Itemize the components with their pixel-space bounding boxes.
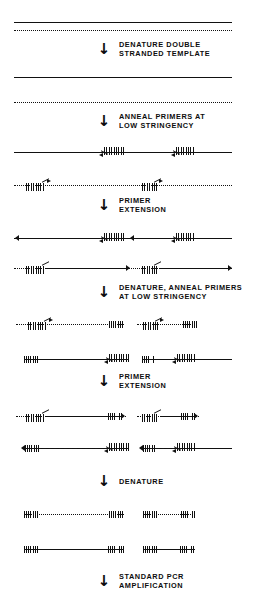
synthesis-arrowhead-left: [15, 235, 19, 241]
template-bottom-strand: [14, 24, 232, 36]
down-arrow-icon: ↓: [95, 198, 113, 213]
primer-derived-end: [25, 445, 39, 452]
down-arrow-icon: ↓: [95, 374, 113, 389]
strand-row-fragments-dotted: [0, 318, 271, 330]
new-strand-extension: [46, 262, 130, 274]
annealed-primer: [172, 442, 196, 454]
primer-arrowhead-left: [171, 153, 175, 157]
primer-arrowhead-left: [172, 449, 176, 453]
extension-line-dashed: [28, 448, 108, 449]
primer-derived-end: [24, 356, 38, 363]
down-arrow-icon: ↓: [95, 42, 113, 57]
step-primer-extension-2: ↓ PRIMEREXTENSION: [95, 372, 166, 391]
strand-line-solid: [14, 22, 232, 23]
strand-line-dotted: [14, 102, 232, 103]
primer-derived-end: [143, 445, 156, 452]
primer-derived-end: [24, 546, 39, 553]
step-label: PRIMEREXTENSION: [119, 372, 166, 391]
new-strand-extension: [160, 262, 232, 274]
synthesis-arrowhead-right: [121, 413, 125, 419]
strand-row-extended-bottom: [0, 262, 271, 274]
step-denature-double-stranded-template: ↓ DENATURE DOUBLESTRANDED TEMPLATE: [95, 40, 208, 59]
annealed-primer: [104, 353, 130, 365]
synthesis-arrowhead-left: [21, 445, 25, 451]
primer-arrowhead-right: [159, 179, 163, 183]
annealed-primer: [99, 232, 125, 244]
primer-derived-end: [180, 546, 195, 553]
single-strand-dotted: [14, 96, 232, 108]
primer-arrowhead-left: [104, 449, 108, 453]
annealed-primer: [172, 353, 196, 365]
primer-derived-end: [143, 511, 157, 518]
strand-line-dotted: [14, 30, 232, 31]
primer-derived-end: [109, 511, 124, 518]
synthesis-arrowhead-right: [194, 413, 198, 419]
primer-arrowhead-right: [49, 318, 53, 322]
primer-arrowhead-left: [99, 239, 103, 243]
annealed-primer: [28, 318, 54, 330]
down-arrow-icon: ↓: [95, 285, 113, 300]
down-arrow-icon: ↓: [95, 114, 113, 129]
step-label: DENATURE DOUBLESTRANDED TEMPLATE: [119, 40, 210, 59]
primer-derived-end: [109, 321, 124, 328]
step-label: PRIMEREXTENSION: [119, 196, 166, 215]
primer-derived-end: [181, 413, 195, 420]
primer-derived-end: [108, 413, 122, 420]
annealed-primer: [171, 232, 195, 244]
strand-line-solid: [14, 77, 232, 78]
single-strand-solid: [14, 71, 232, 83]
step-label: ANNEAL PRIMERS ATLOW STRINGENCY: [119, 112, 205, 131]
primer-derived-end: [181, 511, 195, 518]
new-strand-extension: [28, 442, 108, 454]
extension-line-solid: [46, 268, 130, 269]
step-primer-extension-1: ↓ PRIMEREXTENSION: [95, 196, 166, 215]
strand-row-extended-fragments-bottom: [0, 442, 271, 454]
step-label: DENATURE, ANNEAL PRIMERSAT LOW STRINGENC…: [119, 283, 242, 302]
synthesis-arrowhead-left: [139, 445, 143, 451]
down-arrow-icon: ↓: [95, 474, 113, 489]
synthesis-arrowhead-left: [130, 235, 134, 241]
annealed-primer: [142, 179, 166, 191]
primer-arrowhead-left: [104, 360, 108, 364]
strand-row-duplex-template-bottom: [0, 24, 271, 36]
primer-derived-end: [183, 321, 197, 328]
strand-row-separated-bottom: [0, 96, 271, 108]
primer-arrowhead-right: [47, 179, 51, 183]
annealed-primer: [104, 442, 130, 454]
annealed-primer: [171, 146, 195, 158]
annealed-primer: [143, 318, 167, 330]
step-denature: ↓ DENATURE: [95, 474, 163, 489]
annealed-primer: [99, 146, 125, 158]
primer-arrowhead-left: [172, 360, 176, 364]
strand-row-extended-top: [0, 232, 271, 244]
primer-arrowhead-right: [160, 318, 164, 322]
pcr-diagram: ↓ DENATURE DOUBLESTRANDED TEMPLATE ↓ ANN…: [0, 0, 271, 602]
step-anneal-primers-low-stringency: ↓ ANNEAL PRIMERS ATLOW STRINGENCY: [95, 112, 204, 131]
extension-line-solid: [160, 268, 232, 269]
synthesis-arrowhead-right: [228, 265, 232, 271]
down-arrow-icon: ↓: [95, 574, 113, 589]
strand-row-annealed-top: [0, 146, 271, 158]
step-label: DENATURE: [119, 477, 164, 486]
step-denature-anneal-primers-low-stringency: ↓ DENATURE, ANNEAL PRIMERSAT LOW STRINGE…: [95, 283, 240, 302]
primer-arrowhead-left: [99, 153, 103, 157]
strand-row-final-products-dotted: [0, 508, 271, 520]
step-label: STANDARD PCRAMPLIFICATION: [119, 572, 184, 591]
primer-derived-end: [143, 546, 158, 553]
synthesis-arrowhead-right: [126, 265, 130, 271]
strand-row-final-products-solid: [0, 543, 271, 555]
primer-arrowhead-left: [171, 239, 175, 243]
primer-derived-end: [108, 546, 124, 553]
strand-row-fragments-solid: [0, 353, 271, 365]
strand-row-separated-top: [0, 71, 271, 83]
annealed-primer: [26, 179, 52, 191]
primer-derived-end: [142, 356, 155, 363]
strand-row-extended-fragments-top: [0, 410, 271, 422]
primer-derived-end: [24, 511, 38, 518]
strand-row-annealed-bottom: [0, 179, 271, 191]
step-standard-pcr-amplification: ↓ STANDARD PCRAMPLIFICATION: [95, 572, 183, 591]
